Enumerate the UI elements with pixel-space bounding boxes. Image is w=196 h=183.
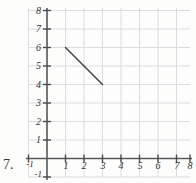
x-axis-label-2: 2 [78, 161, 90, 171]
y-axis-label--1: -1 [28, 170, 42, 179]
y-axis-label-2: 2 [29, 117, 41, 127]
y-axis-label-7: 7 [29, 24, 41, 34]
x-axis-label-3: 3 [97, 161, 109, 171]
graph-figure: 8 7 6 5 4 3 2 1 -1 -1 1 2 3 4 5 6 7 8 7. [0, 0, 196, 183]
x-axis-label-6: 6 [152, 161, 164, 171]
x-axis-label-7: 7 [171, 161, 183, 171]
vertical-grid-lines [29, 8, 177, 177]
x-axis-label-8: 8 [184, 161, 196, 171]
x-axis-label-5: 5 [134, 161, 146, 171]
y-axis-label-5: 5 [29, 61, 41, 71]
y-axis-label-8: 8 [29, 6, 41, 16]
y-axis-label-1: 1 [29, 135, 41, 145]
problem-number: 7. [3, 158, 14, 172]
y-axis-label-3: 3 [29, 98, 41, 108]
horizontal-grid-lines [28, 11, 190, 178]
x-axis-label-4: 4 [115, 161, 127, 171]
x-axis-label-1: 1 [60, 161, 72, 171]
y-axis-label-4: 4 [29, 80, 41, 90]
x-axis-label--1: -1 [24, 160, 36, 169]
y-axis-label-6: 6 [29, 43, 41, 53]
